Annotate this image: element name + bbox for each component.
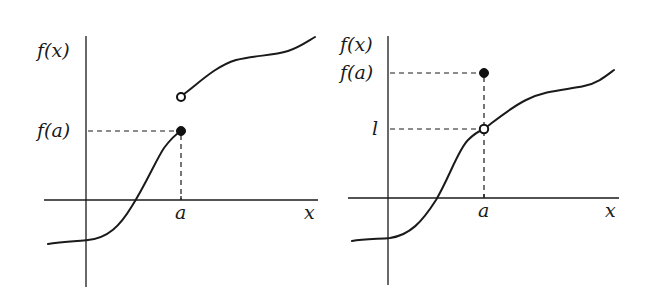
left-y-axis-label: f(x) (35, 39, 70, 61)
left-filled-point (177, 127, 186, 136)
left-open-point (177, 93, 185, 101)
left-fa-label: f(a) (35, 119, 70, 141)
left-graph: f(x) f(a) a x (35, 36, 318, 287)
right-y-axis-label: f(x) (338, 33, 373, 55)
right-open-point-l (480, 125, 488, 133)
right-graph: f(x) f(a) l a x (338, 33, 619, 285)
left-curve-upper (184, 37, 315, 94)
right-a-label: a (478, 199, 489, 221)
right-filled-point-fa (480, 69, 489, 78)
right-fa-label: f(a) (338, 61, 373, 83)
right-x-axis-label: x (605, 199, 616, 221)
left-a-label: a (175, 201, 186, 223)
left-x-axis-label: x (304, 201, 315, 223)
diagram-canvas: f(x) f(a) a x f(x) f(a) l a x (0, 0, 649, 299)
left-curve-lower (48, 131, 181, 244)
right-l-label: l (372, 117, 378, 139)
